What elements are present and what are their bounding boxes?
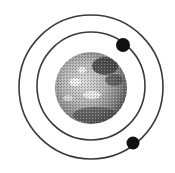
diagram-canvas [0,0,175,173]
planet [50,50,132,130]
inner-moon [116,38,130,52]
planet-surface-texture [50,50,132,130]
atom-orbit-diagram [0,0,175,173]
outer-moon [127,137,140,150]
